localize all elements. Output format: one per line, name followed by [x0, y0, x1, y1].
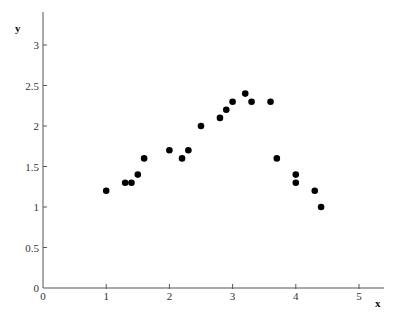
- y-tick-label: 3: [34, 39, 40, 51]
- y-ticks: 00.511.522.53: [25, 39, 47, 294]
- data-point: [166, 147, 173, 154]
- axes: [43, 12, 384, 288]
- data-point: [135, 171, 142, 178]
- data-point: [267, 98, 274, 105]
- x-ticks: 012345: [40, 284, 362, 302]
- x-tick-label: 3: [230, 290, 236, 302]
- y-tick-label: 1: [34, 201, 40, 213]
- data-point: [223, 107, 230, 114]
- x-tick-label: 2: [167, 290, 173, 302]
- data-point: [229, 98, 236, 105]
- data-point: [198, 123, 205, 130]
- data-point: [141, 155, 148, 162]
- x-tick-label: 1: [103, 290, 109, 302]
- data-point: [103, 188, 110, 195]
- data-point: [242, 90, 249, 97]
- data-point: [122, 179, 129, 186]
- y-tick-label: 0: [34, 282, 40, 294]
- data-point: [274, 155, 281, 162]
- y-tick-label: 2.5: [25, 80, 39, 92]
- data-point: [185, 147, 192, 154]
- x-tick-label: 0: [40, 290, 46, 302]
- y-axis-label: y: [15, 22, 21, 34]
- y-tick-label: 0.5: [25, 242, 39, 254]
- data-point: [179, 155, 186, 162]
- data-point: [217, 115, 224, 122]
- data-point: [318, 204, 325, 211]
- scatter-chart: 012345 00.511.522.53 x y: [0, 0, 404, 321]
- data-point: [293, 179, 300, 186]
- x-axis-label: x: [375, 297, 381, 309]
- x-tick-label: 5: [356, 290, 362, 302]
- data-point: [311, 188, 318, 195]
- data-point: [128, 179, 135, 186]
- x-tick-label: 4: [293, 290, 299, 302]
- data-point: [248, 98, 255, 105]
- data-point: [293, 171, 300, 178]
- data-points: [103, 90, 324, 210]
- y-tick-label: 2: [34, 120, 40, 132]
- y-tick-label: 1.5: [25, 161, 39, 173]
